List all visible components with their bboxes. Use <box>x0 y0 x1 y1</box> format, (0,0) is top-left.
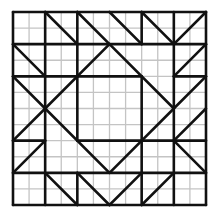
quilt-diagram <box>0 0 217 218</box>
